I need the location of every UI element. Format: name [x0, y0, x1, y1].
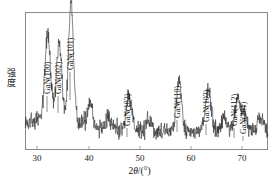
xrd-figure: 3040506070 2θ/(°) 强 度 GaN(100)GaN(002)Ga… — [0, 0, 279, 188]
peak-label-gan101: GaN(101) — [67, 38, 75, 70]
y-axis-title: 强 度 — [4, 68, 18, 88]
peak-label-gan002: GaN(002) — [55, 62, 63, 94]
x-tick-label-60: 60 — [187, 154, 196, 163]
peak-label-gan102: GaN(102) — [124, 94, 132, 126]
x-tick-label-30: 30 — [33, 154, 42, 163]
x-tick-label-50: 50 — [136, 154, 145, 163]
x-axis-title-suffix: /(°) — [138, 166, 151, 176]
peak-label-gan110: GaN(110) — [174, 86, 182, 118]
x-tick-label-70: 70 — [238, 154, 247, 163]
peak-label-gan103: GaN(103) — [203, 90, 211, 122]
y-axis-title-char-2: 度 — [4, 78, 18, 88]
peak-label-gan201: GaN(201) — [240, 102, 248, 134]
y-axis-title-char-1: 强 — [4, 68, 18, 78]
peak-label-gan100: GaN(100) — [44, 62, 52, 94]
x-axis-title: 2θ/(°) — [0, 166, 279, 177]
x-axis-ticks — [37, 146, 242, 150]
x-tick-label-40: 40 — [85, 154, 94, 163]
peak-label-gan112: GaN(112) — [231, 94, 239, 126]
